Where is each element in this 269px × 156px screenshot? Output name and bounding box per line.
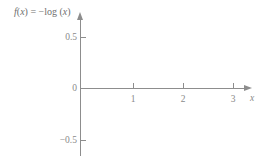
function-log-arg-close: ) bbox=[67, 6, 70, 17]
x-tick-label-1: 1 bbox=[124, 95, 142, 105]
y-axis-line bbox=[80, 18, 81, 156]
x-tick-label-3: 3 bbox=[224, 95, 242, 105]
y-tick-label-0.5: 0.5 bbox=[0, 33, 77, 43]
y-axis-arrow-icon bbox=[77, 12, 83, 20]
x-tick-mark-1 bbox=[133, 83, 134, 88]
x-tick-mark-2 bbox=[183, 83, 184, 88]
y-tick-label-minus-0.5: −0.5 bbox=[0, 136, 77, 146]
y-tick-mark-minus-0.5 bbox=[81, 140, 86, 141]
function-log-name: log bbox=[44, 6, 57, 17]
x-tick-label-2: 2 bbox=[174, 95, 192, 105]
x-tick-mark-3 bbox=[233, 83, 234, 88]
y-tick-mark-0 bbox=[81, 88, 86, 89]
function-equals: = bbox=[28, 6, 39, 17]
y-tick-mark-0.5 bbox=[81, 37, 86, 38]
log-function-axes-figure: f(x) = −log (x) 0.5 0 −0.5 1 2 3 x bbox=[0, 0, 269, 156]
y-tick-label-0: 0 bbox=[0, 84, 77, 94]
function-label: f(x) = −log (x) bbox=[14, 6, 71, 17]
x-axis-arrow-icon bbox=[244, 85, 252, 91]
x-axis-label: x bbox=[250, 93, 254, 103]
x-axis-line bbox=[80, 88, 246, 89]
